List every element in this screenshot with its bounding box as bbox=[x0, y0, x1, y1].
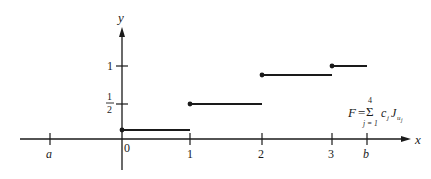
step-start-dot-3 bbox=[330, 64, 335, 69]
y-tick-half-numerator: 1 bbox=[107, 91, 112, 102]
x-axis-label: x bbox=[414, 132, 421, 147]
x-tick-label-0: 0 bbox=[124, 141, 130, 155]
step-start-dot-2 bbox=[260, 73, 265, 78]
step-start-dot-1 bbox=[188, 102, 193, 107]
y-axis-label: y bbox=[116, 10, 124, 25]
y-tick-half-denominator: 2 bbox=[107, 104, 112, 115]
formula-sum-lower: j = 1 bbox=[362, 119, 378, 128]
step-function-diagram: x y a 0 1 2 3 b 1 1 2 F = 4 bbox=[0, 0, 431, 179]
x-tick-label-3: 3 bbox=[328, 147, 334, 161]
formula-term-J-subsub: j bbox=[400, 117, 403, 123]
y-axis-arrow-icon bbox=[119, 27, 125, 37]
formula-sum-symbol: Σ bbox=[366, 104, 374, 119]
step-segments bbox=[120, 64, 367, 133]
step-start-dot-0 bbox=[120, 128, 125, 133]
x-tick-label-b: b bbox=[363, 147, 369, 161]
formula-term-c-sub: j bbox=[386, 114, 389, 122]
formula-lhs: F bbox=[347, 105, 357, 120]
formula-equals: = bbox=[358, 105, 365, 120]
x-tick-label-2: 2 bbox=[258, 147, 264, 161]
x-tick-label-a: a bbox=[46, 147, 52, 161]
y-tick-label-1: 1 bbox=[107, 59, 113, 73]
x-axis-arrow-icon bbox=[401, 136, 411, 142]
formula: F = 4 Σ j = 1 c j J u j bbox=[347, 96, 403, 128]
y-tick-label-half: 1 2 bbox=[106, 91, 114, 115]
x-tick-label-1: 1 bbox=[187, 147, 193, 161]
